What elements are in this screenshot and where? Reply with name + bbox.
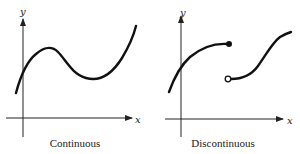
y-axis-label: y [19, 6, 26, 17]
closed-endpoint-dot [226, 41, 232, 47]
x-axis-label: x [135, 114, 141, 125]
caption-discontinuous: Discontinuous [191, 137, 255, 149]
right-branch-curve [231, 32, 291, 79]
continuity-diagram: y x Continuous y x Discontinuous [0, 0, 300, 154]
open-endpoint-circle [225, 76, 231, 82]
y-axis-label: y [179, 7, 186, 18]
continuous-panel: y x Continuous [6, 6, 141, 149]
x-axis-label: x [287, 115, 293, 126]
continuous-curve [16, 26, 136, 93]
left-branch-curve [169, 44, 228, 92]
discontinuous-panel: y x Discontinuous [165, 7, 293, 149]
caption-continuous: Continuous [50, 137, 101, 149]
